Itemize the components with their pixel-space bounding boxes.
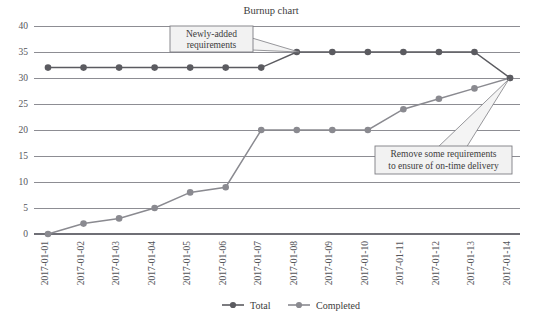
legend-swatch-marker-total bbox=[230, 302, 236, 308]
data-point[interactable] bbox=[80, 220, 87, 227]
annotation-remove-requirements-line-2: to ensure of on-time delivery bbox=[388, 161, 499, 171]
y-axis-ticks: 40 35 30 25 20 15 10 5 0 bbox=[19, 21, 29, 239]
y-tick-label-25: 25 bbox=[19, 99, 29, 109]
y-tick-label-30: 30 bbox=[19, 73, 29, 83]
x-tick-label-2017-01-02: 2017-01-02 bbox=[76, 241, 86, 286]
data-point[interactable] bbox=[400, 106, 407, 113]
data-point[interactable] bbox=[45, 64, 52, 71]
legend-label-completed: Completed bbox=[316, 300, 360, 311]
y-tick-label-5: 5 bbox=[23, 203, 28, 213]
x-tick-label-2017-01-11: 2017-01-11 bbox=[395, 241, 405, 285]
y-tick-label-40: 40 bbox=[19, 21, 29, 31]
x-tick-label-2017-01-10: 2017-01-10 bbox=[360, 241, 370, 286]
annotation-newly-added-line-1: Newly-added bbox=[186, 29, 237, 39]
data-point[interactable] bbox=[116, 64, 123, 71]
data-point[interactable] bbox=[151, 205, 158, 212]
data-point[interactable] bbox=[222, 184, 229, 191]
data-point[interactable] bbox=[80, 64, 87, 71]
x-tick-label-2017-01-07: 2017-01-07 bbox=[253, 241, 263, 286]
x-tick-label-2017-01-05: 2017-01-05 bbox=[182, 241, 192, 286]
annotation-newly-added-line-2: requirements bbox=[187, 40, 237, 50]
legend-swatch-marker-completed bbox=[296, 302, 302, 308]
data-point[interactable] bbox=[258, 127, 265, 134]
data-point[interactable] bbox=[471, 85, 478, 92]
data-point[interactable] bbox=[187, 189, 194, 196]
annotation-newly-added[interactable]: Newly-added requirements bbox=[170, 26, 299, 52]
data-point[interactable] bbox=[222, 64, 229, 71]
legend-item-total[interactable]: Total bbox=[222, 300, 271, 311]
x-tick-label-2017-01-01: 2017-01-01 bbox=[40, 241, 50, 286]
y-tick-label-20: 20 bbox=[19, 125, 29, 135]
y-tick-label-15: 15 bbox=[19, 151, 29, 161]
y-tick-label-0: 0 bbox=[23, 229, 28, 239]
series-total bbox=[45, 49, 514, 82]
data-point[interactable] bbox=[329, 127, 336, 134]
data-point[interactable] bbox=[365, 127, 372, 134]
data-point[interactable] bbox=[471, 49, 478, 56]
x-axis-ticks: 2017-01-01 2017-01-02 2017-01-03 2017-01… bbox=[40, 241, 512, 286]
data-point[interactable] bbox=[151, 64, 158, 71]
y-tick-label-10: 10 bbox=[19, 177, 29, 187]
data-point[interactable] bbox=[436, 49, 443, 56]
data-point[interactable] bbox=[293, 127, 300, 134]
y-tick-label-35: 35 bbox=[19, 47, 29, 57]
annotation-remove-requirements[interactable]: Remove some requirements to ensure of on… bbox=[375, 79, 512, 174]
chart-title: Burnup chart bbox=[243, 5, 298, 16]
data-point[interactable] bbox=[436, 96, 443, 103]
data-point[interactable] bbox=[45, 231, 52, 238]
x-tick-label-2017-01-08: 2017-01-08 bbox=[289, 241, 299, 286]
x-tick-label-2017-01-04: 2017-01-04 bbox=[147, 241, 157, 286]
data-point[interactable] bbox=[116, 215, 123, 222]
data-point[interactable] bbox=[258, 64, 265, 71]
chart-canvas: Burnup chart 40 35 30 25 20 15 10 5 0 bbox=[0, 0, 543, 325]
burnup-chart: Burnup chart 40 35 30 25 20 15 10 5 0 bbox=[0, 0, 543, 325]
annotation-remove-requirements-line-1: Remove some requirements bbox=[390, 149, 496, 159]
legend-item-completed[interactable]: Completed bbox=[288, 300, 360, 311]
x-tick-label-2017-01-09: 2017-01-09 bbox=[324, 241, 334, 286]
x-tick-label-2017-01-14: 2017-01-14 bbox=[502, 241, 512, 286]
data-point[interactable] bbox=[329, 49, 336, 56]
data-point[interactable] bbox=[400, 49, 407, 56]
data-point[interactable] bbox=[365, 49, 372, 56]
legend-label-total: Total bbox=[250, 300, 271, 311]
x-tick-label-2017-01-03: 2017-01-03 bbox=[111, 241, 121, 286]
gridlines bbox=[34, 26, 520, 208]
x-tick-label-2017-01-13: 2017-01-13 bbox=[466, 241, 476, 286]
data-point[interactable] bbox=[187, 64, 194, 71]
x-tick-label-2017-01-06: 2017-01-06 bbox=[218, 241, 228, 286]
chart-legend: Total Completed bbox=[222, 300, 360, 311]
annotation-newly-added-leader bbox=[252, 38, 299, 52]
x-tick-label-2017-01-12: 2017-01-12 bbox=[431, 241, 441, 286]
